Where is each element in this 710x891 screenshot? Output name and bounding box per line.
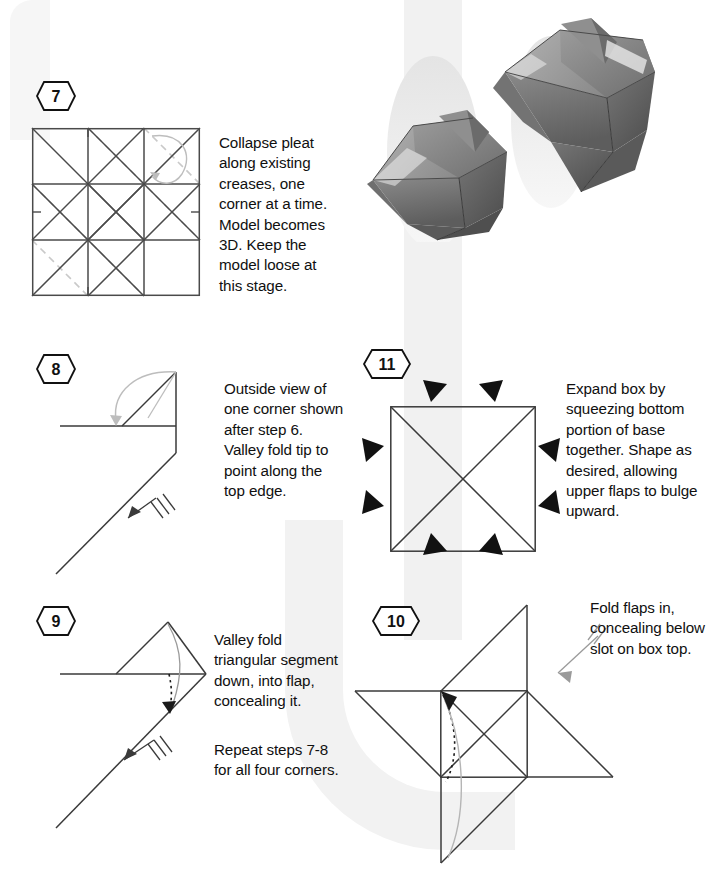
finished-model-photos [355,2,707,242]
step-7-number: 7 [52,88,61,105]
step-11-text: Expand box by squeezing bottom portion o… [566,379,702,522]
step-7-text: Collapse pleat along existing creases, o… [219,133,343,296]
step-9-text-repeat: Repeat steps 7-8 for all four corners. [214,740,346,781]
watermark-top-shape [10,0,50,140]
step-7-badge: 7 [36,80,76,112]
step-11-diagram [360,372,570,567]
step-9-text: Valley fold triangular segment down, int… [214,630,340,712]
step-8-diagram [28,358,218,588]
photo-box-lower [367,110,507,240]
step-8-text: Outside view of one corner shown after s… [224,379,346,501]
step-9-diagram [28,612,218,842]
step-11-number: 11 [379,356,396,373]
instruction-page: 7 [0,0,710,891]
step-10-text: Fold flaps in, concealing below slot on … [590,598,710,659]
step-7-diagram [32,128,200,296]
